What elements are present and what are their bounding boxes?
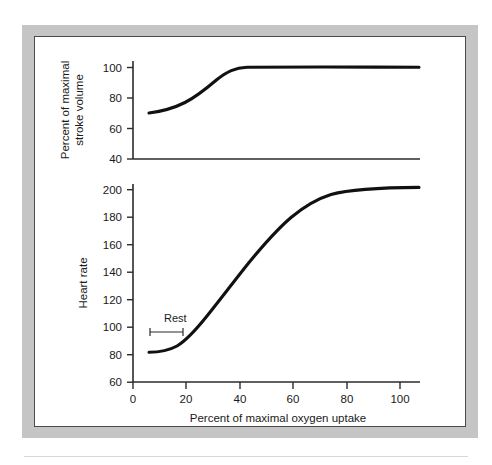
hr-ytick-label-160: 160 bbox=[103, 239, 122, 251]
sv-y-axis-title: Percent of maximal stroke volume bbox=[59, 61, 85, 159]
sv-ytick-label-100: 100 bbox=[103, 62, 122, 74]
hr-xtick-label-80: 80 bbox=[341, 393, 354, 405]
hr-ytick-label-180: 180 bbox=[103, 211, 122, 223]
figure-frame: 100 80 60 40 Percent of maximal stroke v… bbox=[22, 25, 478, 438]
sv-curve bbox=[149, 67, 419, 113]
figure-panel: 100 80 60 40 Percent of maximal stroke v… bbox=[34, 36, 466, 427]
sv-y-axis-title-line1: Percent of maximal bbox=[59, 61, 71, 159]
hr-xtick-label-100: 100 bbox=[390, 393, 409, 405]
rest-annotation-label: Rest bbox=[164, 312, 187, 324]
hr-ytick-label-120: 120 bbox=[103, 294, 122, 306]
hr-curve bbox=[149, 187, 419, 352]
hr-ytick-label-100: 100 bbox=[103, 321, 122, 333]
hr-ytick-label-80: 80 bbox=[109, 349, 122, 361]
sv-ytick-label-40: 40 bbox=[109, 153, 122, 165]
hr-xtick-label-60: 60 bbox=[287, 393, 300, 405]
hr-ytick-label-200: 200 bbox=[103, 184, 122, 196]
footer-divider bbox=[24, 456, 468, 457]
hr-y-axis-title-text: Heart rate bbox=[77, 257, 89, 308]
heart-rate-chart: 200 180 160 140 120 100 80 60 Heart rate bbox=[77, 184, 420, 424]
hr-xtick-label-40: 40 bbox=[234, 393, 247, 405]
hr-y-axis-title: Heart rate bbox=[77, 257, 89, 308]
hr-ytick-label-60: 60 bbox=[109, 376, 122, 388]
sv-ytick-label-80: 80 bbox=[109, 92, 122, 104]
sv-y-axis-title-line2: stroke volume bbox=[73, 74, 85, 146]
hr-xtick-label-20: 20 bbox=[180, 393, 193, 405]
rest-annotation: Rest bbox=[150, 312, 187, 336]
hr-x-axis-title: Percent of maximal oxygen uptake bbox=[190, 412, 366, 424]
hr-ytick-label-140: 140 bbox=[103, 266, 122, 278]
sv-ytick-label-60: 60 bbox=[109, 123, 122, 135]
dual-line-chart: 100 80 60 40 Percent of maximal stroke v… bbox=[35, 37, 467, 428]
stroke-volume-chart: 100 80 60 40 Percent of maximal stroke v… bbox=[59, 61, 420, 165]
hr-xtick-label-0: 0 bbox=[130, 393, 136, 405]
